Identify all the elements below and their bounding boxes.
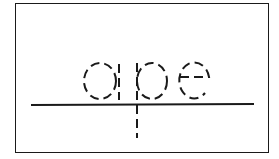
letter-p [137, 63, 167, 138]
baseline [31, 104, 254, 105]
letter-e [179, 62, 209, 98]
tracing-word-ape [0, 0, 279, 159]
letter-a [84, 63, 119, 100]
